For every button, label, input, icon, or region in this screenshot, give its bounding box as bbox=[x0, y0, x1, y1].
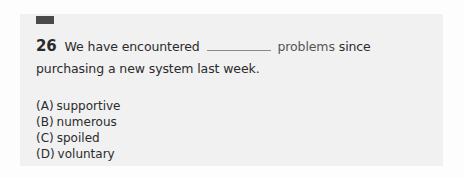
question-marker bbox=[36, 16, 54, 24]
option-letter: (B) bbox=[36, 115, 54, 129]
option-text: spoiled bbox=[57, 131, 100, 145]
question-text-before: We have encountered bbox=[65, 39, 200, 54]
question-number: 26 bbox=[36, 37, 57, 55]
option-letter: (C) bbox=[36, 131, 54, 145]
option-b[interactable]: (B)numerous bbox=[36, 114, 120, 130]
option-a[interactable]: (A)supportive bbox=[36, 98, 120, 114]
option-letter: (A) bbox=[36, 99, 54, 113]
answer-blank bbox=[207, 38, 271, 51]
question-keyword: problems bbox=[277, 39, 334, 54]
question-card: 26 We have encountered problems since pu… bbox=[20, 14, 443, 166]
option-d[interactable]: (D)voluntary bbox=[36, 146, 120, 162]
option-text: numerous bbox=[57, 115, 117, 129]
page: 26 We have encountered problems since pu… bbox=[0, 0, 464, 178]
option-c[interactable]: (C)spoiled bbox=[36, 130, 120, 146]
option-text: voluntary bbox=[58, 147, 115, 161]
answer-options: (A)supportive (B)numerous (C)spoiled (D)… bbox=[36, 98, 120, 162]
question-stem: 26 We have encountered problems since pu… bbox=[36, 35, 436, 80]
option-letter: (D) bbox=[36, 147, 55, 161]
option-text: supportive bbox=[57, 99, 121, 113]
